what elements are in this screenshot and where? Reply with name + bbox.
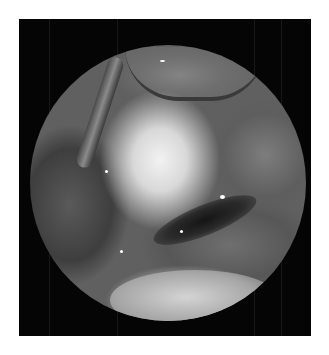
specular-glint (220, 195, 225, 199)
tissue-fold (125, 47, 265, 101)
instrument-shaft (75, 55, 126, 169)
specular-glint (105, 170, 108, 173)
dark-bleeding-area (148, 185, 261, 254)
specular-glint (120, 250, 123, 253)
scope-view-circle (30, 45, 306, 321)
endoscope-frame (19, 19, 311, 336)
specular-glint (180, 230, 183, 233)
specular-glint (160, 60, 165, 62)
